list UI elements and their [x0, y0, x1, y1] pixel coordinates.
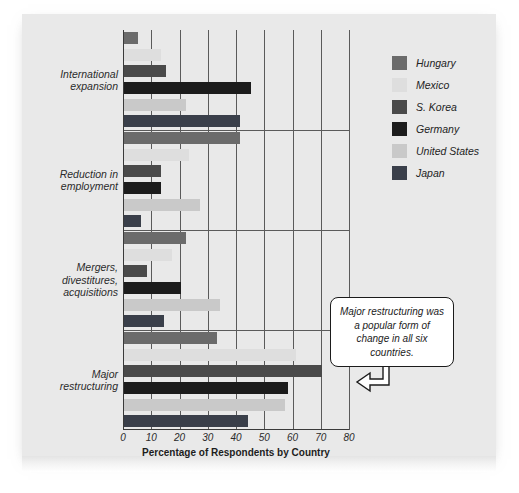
legend-label: Hungary [416, 57, 456, 69]
bar [124, 115, 240, 127]
x-tick-label: 60 [287, 432, 298, 443]
y-axis-line [123, 30, 124, 430]
legend-swatch-icon [392, 78, 407, 92]
bar [124, 182, 161, 194]
bar-row [123, 413, 349, 430]
legend-item[interactable]: Germany [392, 118, 496, 140]
category-label: Reduction inemployment [14, 168, 118, 193]
bar-row [123, 263, 349, 280]
category-label: Internationalexpansion [14, 68, 118, 93]
x-axis-title: Percentage of Respondents by Country [123, 447, 349, 458]
category-label-line: Mergers, [14, 261, 118, 274]
bar-row [123, 313, 349, 330]
legend-label: Mexico [416, 79, 449, 91]
bar [124, 149, 189, 161]
legend-item[interactable]: S. Korea [392, 96, 496, 118]
category-label: Majorrestructuring [14, 368, 118, 393]
bar-row [123, 347, 349, 364]
bar-row [123, 197, 349, 214]
category-label-line: restructuring [14, 380, 118, 393]
group-separator [123, 330, 349, 331]
bar-row [123, 280, 349, 297]
bar-group [123, 30, 349, 130]
bar-group [123, 230, 349, 330]
bar [124, 249, 172, 261]
group-separator [123, 230, 349, 231]
category-label: Mergers,divestitures,acquisitions [14, 261, 118, 299]
callout-box: Major restructuring was a popular form o… [330, 297, 454, 367]
bar [124, 299, 220, 311]
bar [124, 415, 248, 427]
chart-screenshot: InternationalexpansionReduction inemploy… [0, 0, 519, 493]
bar-row [123, 30, 349, 47]
x-tick-label: 20 [174, 432, 185, 443]
bar [124, 215, 141, 227]
x-tick-label: 50 [259, 432, 270, 443]
gridline-80 [349, 30, 350, 430]
x-tick-label: 70 [315, 432, 326, 443]
bar-row [123, 80, 349, 97]
panel-shadow [22, 456, 496, 472]
bar-row [123, 363, 349, 380]
category-label-line: International [14, 68, 118, 81]
bar [124, 315, 164, 327]
legend-item[interactable]: United States [392, 140, 496, 162]
bar [124, 99, 186, 111]
bar [124, 282, 181, 294]
legend-label: S. Korea [416, 101, 457, 113]
x-tick-label: 40 [230, 432, 241, 443]
bar [124, 332, 217, 344]
bar-row [123, 97, 349, 114]
bar [124, 365, 322, 377]
legend-label: United States [416, 145, 479, 157]
bar [124, 82, 251, 94]
bar-row [123, 397, 349, 414]
bar-row [123, 213, 349, 230]
legend-item[interactable]: Japan [392, 162, 496, 184]
bar [124, 132, 240, 144]
bar [124, 399, 285, 411]
bar-row [123, 130, 349, 147]
legend-item[interactable]: Hungary [392, 52, 496, 74]
bar [124, 382, 288, 394]
legend-swatch-icon [392, 166, 407, 180]
bar [124, 199, 200, 211]
legend-swatch-icon [392, 122, 407, 136]
bar-row [123, 380, 349, 397]
bar-row [123, 47, 349, 64]
category-label-line: divestitures, [14, 274, 118, 287]
bar-row [123, 247, 349, 264]
legend-item[interactable]: Mexico [392, 74, 496, 96]
x-tick-label: 80 [343, 432, 354, 443]
bar-row [123, 297, 349, 314]
bar-row [123, 330, 349, 347]
legend-swatch-icon [392, 56, 407, 70]
x-axis-tick-labels: 01020304050607080 [123, 432, 349, 448]
legend-label: Germany [416, 123, 459, 135]
legend-swatch-icon [392, 100, 407, 114]
x-tick-label: 30 [202, 432, 213, 443]
bar-row [123, 63, 349, 80]
x-tick-label: 0 [120, 432, 126, 443]
bar [124, 165, 161, 177]
legend-label: Japan [416, 167, 445, 179]
bar [124, 65, 166, 77]
category-label-line: Reduction in [14, 168, 118, 181]
bar [124, 265, 147, 277]
bar-row [123, 163, 349, 180]
legend: HungaryMexicoS. KoreaGermanyUnited State… [392, 52, 496, 184]
x-axis-line [123, 429, 349, 430]
plot-area [123, 30, 349, 430]
bar [124, 232, 186, 244]
category-label-line: Major [14, 368, 118, 381]
category-label-line: employment [14, 180, 118, 193]
bar [124, 349, 296, 361]
bar-row [123, 147, 349, 164]
bar-group [123, 130, 349, 230]
bar-group [123, 330, 349, 430]
group-separator [123, 130, 349, 131]
bar-row [123, 230, 349, 247]
bar [124, 32, 138, 44]
category-labels: InternationalexpansionReduction inemploy… [8, 30, 118, 430]
category-label-line: acquisitions [14, 286, 118, 299]
